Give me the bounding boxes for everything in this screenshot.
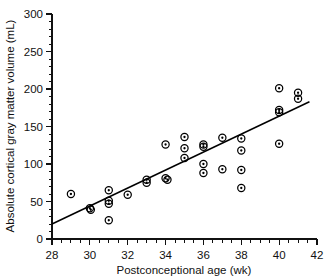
data-point-center bbox=[221, 168, 223, 170]
x-axis-title: Postconceptional age (wk) bbox=[117, 264, 252, 276]
data-point bbox=[105, 217, 112, 224]
data-point bbox=[181, 133, 188, 140]
data-point-center bbox=[221, 137, 223, 139]
data-point bbox=[276, 85, 283, 92]
data-point-center bbox=[183, 147, 185, 149]
data-point-center bbox=[183, 136, 185, 138]
scatter-chart-figure: 050100150200250300 2830323436384042 Post… bbox=[0, 0, 330, 279]
data-point bbox=[238, 147, 245, 154]
x-tick-label: 38 bbox=[235, 249, 248, 261]
data-point bbox=[276, 140, 283, 147]
data-point bbox=[200, 169, 207, 176]
y-tick-label: 150 bbox=[24, 121, 43, 133]
data-point bbox=[238, 166, 245, 173]
y-axis-title: Absolute cortical gray matter volume (mL… bbox=[4, 19, 16, 232]
data-point-center bbox=[240, 187, 242, 189]
x-axis-ticks bbox=[52, 239, 317, 245]
x-tick-label: 36 bbox=[197, 249, 210, 261]
data-point bbox=[124, 191, 131, 198]
data-point-center bbox=[145, 182, 147, 184]
data-point bbox=[219, 134, 226, 141]
data-point-center bbox=[166, 179, 168, 181]
x-tick-label: 32 bbox=[121, 249, 134, 261]
x-tick-label: 34 bbox=[159, 249, 172, 261]
data-point-center bbox=[202, 146, 204, 148]
y-tick-label: 300 bbox=[24, 8, 43, 20]
y-tick-label: 250 bbox=[24, 46, 43, 58]
data-point bbox=[105, 187, 112, 194]
y-axis-ticks bbox=[46, 14, 52, 239]
y-tick-label: 50 bbox=[30, 196, 43, 208]
data-point-center bbox=[183, 157, 185, 159]
x-tick-label: 42 bbox=[311, 249, 324, 261]
data-point-center bbox=[127, 194, 129, 196]
data-point-center bbox=[297, 98, 299, 100]
data-point-center bbox=[278, 143, 280, 145]
x-tick-label: 40 bbox=[273, 249, 286, 261]
y-tick-label: 0 bbox=[37, 233, 43, 245]
data-point-center bbox=[202, 172, 204, 174]
data-point bbox=[238, 135, 245, 142]
data-point-center bbox=[90, 209, 92, 211]
x-tick-label: 30 bbox=[83, 249, 96, 261]
data-point-center bbox=[70, 193, 72, 195]
data-point bbox=[219, 166, 226, 173]
data-point-center bbox=[108, 189, 110, 191]
data-point bbox=[67, 190, 74, 197]
data-point-center bbox=[202, 163, 204, 165]
y-axis-tick-labels: 050100150200250300 bbox=[24, 8, 43, 245]
data-point bbox=[200, 160, 207, 167]
data-points bbox=[67, 85, 301, 224]
data-point-center bbox=[164, 143, 166, 145]
data-point bbox=[181, 145, 188, 152]
x-tick-label: 28 bbox=[46, 249, 59, 261]
chart-svg: 050100150200250300 2830323436384042 Post… bbox=[0, 0, 330, 279]
data-point bbox=[162, 141, 169, 148]
data-point-center bbox=[297, 92, 299, 94]
data-point-center bbox=[240, 149, 242, 151]
y-tick-label: 200 bbox=[24, 83, 43, 95]
data-point-center bbox=[240, 169, 242, 171]
data-point-center bbox=[108, 219, 110, 221]
y-tick-label: 100 bbox=[24, 158, 43, 170]
x-axis-tick-labels: 2830323436384042 bbox=[46, 249, 324, 261]
data-point-center bbox=[240, 137, 242, 139]
data-point bbox=[238, 184, 245, 191]
data-point-center bbox=[278, 111, 280, 113]
data-point-center bbox=[108, 203, 110, 205]
data-point-center bbox=[278, 87, 280, 89]
data-point bbox=[164, 176, 171, 183]
